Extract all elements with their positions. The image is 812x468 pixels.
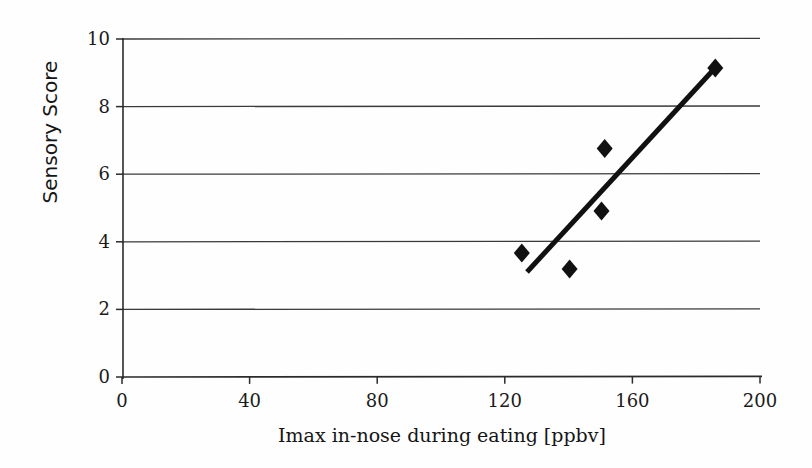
y-tick-label-4: 4	[78, 233, 110, 251]
data-point	[594, 202, 610, 221]
y-tick-label-10: 10	[78, 30, 110, 48]
x-tick-label-0: 0	[116, 392, 127, 410]
gridline-10	[122, 38, 760, 39]
y-tick-label-2: 2	[78, 300, 110, 318]
y-tick-marks	[116, 39, 123, 377]
gridline-4	[122, 241, 760, 242]
gridline-6	[122, 174, 760, 175]
y-axis-title: Sensory Score	[38, 22, 62, 242]
y-tick-label-0: 0	[78, 368, 110, 386]
x-tick-label-40: 40	[238, 392, 261, 410]
gridline-8	[122, 106, 760, 107]
gridlines	[122, 38, 760, 309]
data-point	[514, 244, 530, 263]
x-axis-title: Imax in-nose during eating [ppbv]	[122, 424, 762, 446]
x-tick-label-160: 160	[615, 392, 649, 410]
x-tick-label-120: 120	[488, 392, 522, 410]
x-tick-label-200: 200	[743, 392, 777, 410]
data-point	[597, 139, 613, 158]
gridline-2	[122, 309, 760, 310]
y-tick-label-6: 6	[78, 165, 110, 183]
x-tick-label-80: 80	[366, 392, 389, 410]
data-point	[562, 260, 578, 279]
x-axis-line	[122, 376, 762, 377]
y-tick-label-8: 8	[78, 98, 110, 116]
scatter-chart: 10 8 6 4 2 0 0 40 80 120 160 200 Imax in…	[0, 0, 812, 468]
